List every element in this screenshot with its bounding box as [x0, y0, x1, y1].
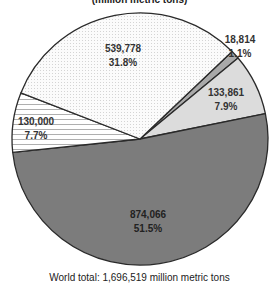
slice-value: 18,814 — [225, 33, 256, 47]
slice-percent: 7.9% — [208, 100, 244, 114]
slice-label-133861: 133,861 7.9% — [208, 86, 244, 114]
slice-value: 874,066 — [130, 208, 166, 222]
slice-value: 130,000 — [18, 115, 54, 129]
slice-label-18814: 18,814 1.1% — [225, 33, 256, 61]
slice-percent: 7.7% — [18, 129, 54, 143]
slice-label-539778: 539,778 31.8% — [105, 42, 141, 70]
slice-percent: 1.1% — [225, 47, 256, 61]
slice-label-874066: 874,066 51.5% — [130, 208, 166, 236]
world-total-caption: World total: 1,696,519 million metric to… — [0, 272, 279, 283]
slice-percent: 31.8% — [105, 56, 141, 70]
slice-value: 133,861 — [208, 86, 244, 100]
slice-percent: 51.5% — [130, 222, 166, 236]
slice-value: 539,778 — [105, 42, 141, 56]
slice-label-130000: 130,000 7.7% — [18, 115, 54, 143]
